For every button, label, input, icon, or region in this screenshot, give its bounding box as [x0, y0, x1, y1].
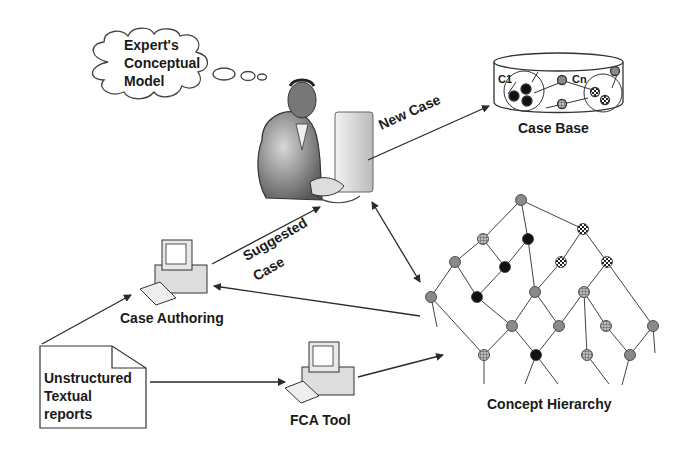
lattice-node [479, 350, 490, 361]
lattice-node [478, 234, 489, 245]
case-authoring-computer-icon [140, 240, 207, 305]
lattice-node [450, 257, 461, 268]
lattice-node [530, 287, 541, 298]
lattice-node [648, 321, 659, 332]
lattice-node [554, 321, 565, 332]
lattice-node [556, 257, 567, 268]
case-authoring-label: Case Authoring [120, 310, 224, 327]
lattice-node [523, 234, 534, 245]
lattice-node [578, 224, 589, 235]
cluster-c1-label: C1 [498, 71, 512, 88]
lattice-node [602, 257, 613, 268]
expert-hierarchy-arrow [372, 202, 420, 282]
reports-line-3: reports [44, 406, 92, 423]
lattice-node [507, 321, 518, 332]
lattice-node [582, 350, 593, 361]
lattice-node [426, 292, 437, 303]
fca-tool-computer-icon [285, 342, 354, 403]
fca-tool-label: FCA Tool [290, 412, 351, 429]
thought-bubble-line-3: Model [124, 73, 164, 90]
reports-line-1: Unstructured [44, 370, 132, 387]
lattice-node [472, 292, 483, 303]
case-base-label: Case Base [518, 120, 589, 137]
lattice-node [625, 350, 636, 361]
reports-line-2: Textual [44, 388, 92, 405]
fca-to-hierarchy-arrow [358, 355, 443, 377]
concept-hierarchy-label: Concept Hierarchy [487, 396, 611, 413]
thought-bubble-line-2: Conceptual [124, 55, 200, 72]
lattice-node [500, 262, 511, 273]
hierarchy-to-authoring-arrow [214, 286, 420, 316]
lattice-node [579, 287, 590, 298]
reports-to-authoring-arrow [42, 295, 131, 344]
thought-bubble-line-1: Expert's [124, 37, 179, 54]
lattice-node [531, 350, 542, 361]
cluster-cn-label: Cn [572, 71, 587, 88]
concept-hierarchy-lattice [426, 195, 659, 386]
expert-user-icon [258, 80, 373, 203]
case-base-icon [494, 53, 623, 113]
lattice-node [516, 195, 527, 206]
lattice-node [601, 321, 612, 332]
